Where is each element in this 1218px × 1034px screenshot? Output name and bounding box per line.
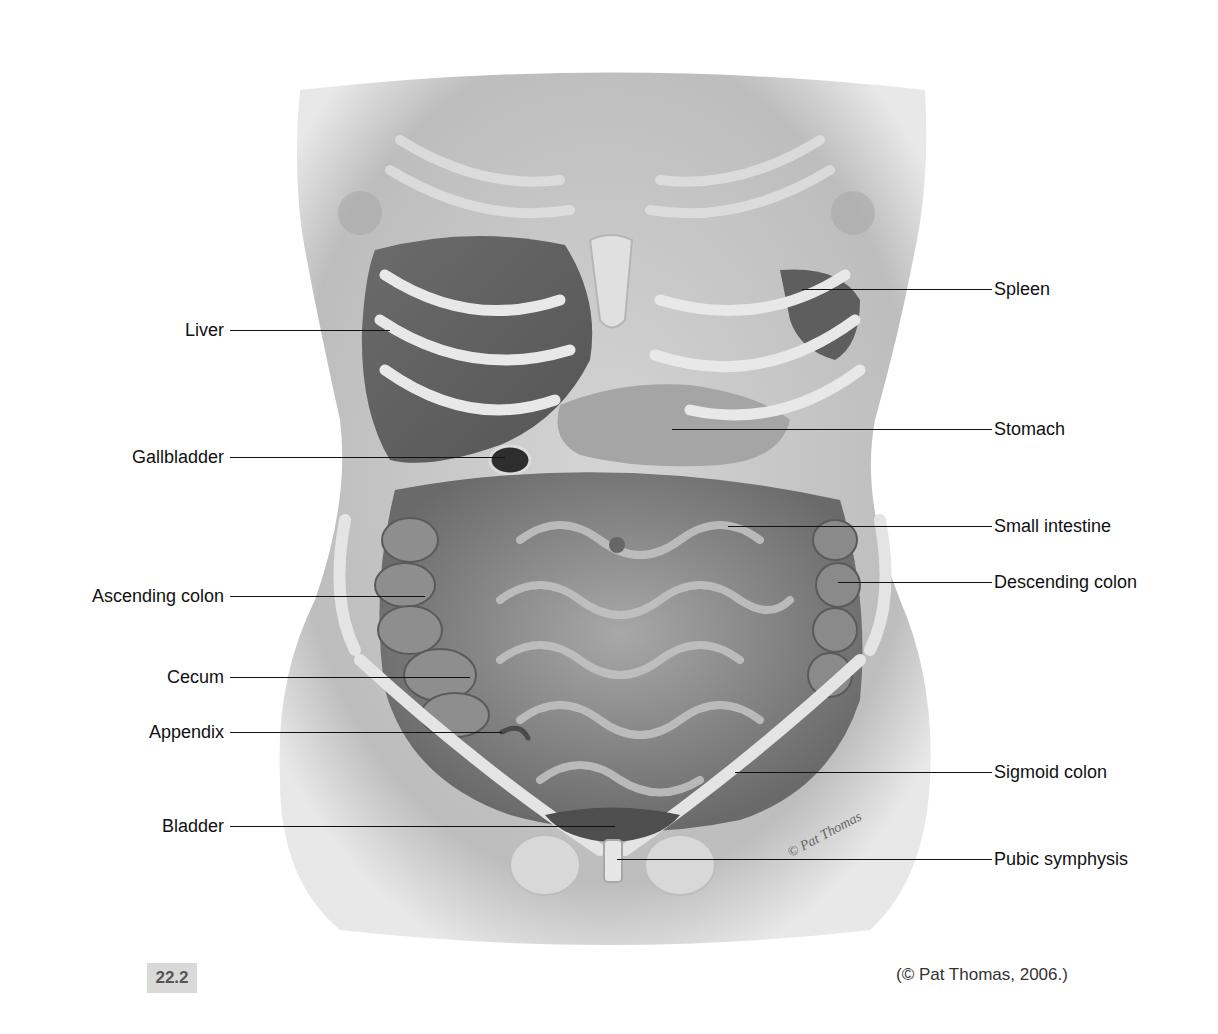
- label-pubic-symphysis: Pubic symphysis: [994, 849, 1128, 869]
- leader-small-intestine: [728, 526, 992, 527]
- leader-ascending-colon: [230, 596, 425, 597]
- leader-cecum: [230, 677, 470, 678]
- label-gallbladder: Gallbladder: [132, 447, 224, 467]
- figure-credit: (© Pat Thomas, 2006.): [896, 965, 1068, 985]
- figure-number: 22.2: [147, 963, 197, 993]
- label-cecum: Cecum: [167, 667, 224, 687]
- label-ascending-colon: Ascending colon: [92, 586, 224, 606]
- label-bladder: Bladder: [162, 816, 224, 836]
- pubic-symphysis-shape: [604, 840, 622, 882]
- label-small-intestine: Small intestine: [994, 516, 1111, 536]
- leader-bladder: [230, 826, 615, 827]
- leader-descending-colon: [838, 582, 992, 583]
- leader-spleen: [802, 289, 992, 290]
- label-appendix: Appendix: [149, 722, 224, 742]
- right-areola: [831, 191, 875, 235]
- navel: [609, 537, 625, 553]
- leader-pubic-symphysis: [617, 859, 992, 860]
- leader-stomach: [672, 429, 992, 430]
- right-obturator: [645, 835, 715, 895]
- gallbladder: [490, 446, 530, 474]
- leader-liver: [230, 330, 390, 331]
- leader-sigmoid-colon: [735, 772, 992, 773]
- label-spleen: Spleen: [994, 279, 1050, 299]
- anatomy-figure: © Pat Thomas Liver Gallbladder Ascending…: [0, 0, 1218, 1034]
- label-sigmoid-colon: Sigmoid colon: [994, 762, 1107, 782]
- left-areola: [338, 191, 382, 235]
- label-stomach: Stomach: [994, 419, 1065, 439]
- label-liver: Liver: [185, 320, 224, 340]
- left-obturator: [510, 835, 580, 895]
- leader-gallbladder: [230, 457, 505, 458]
- leader-appendix: [230, 732, 502, 733]
- label-descending-colon: Descending colon: [994, 572, 1137, 592]
